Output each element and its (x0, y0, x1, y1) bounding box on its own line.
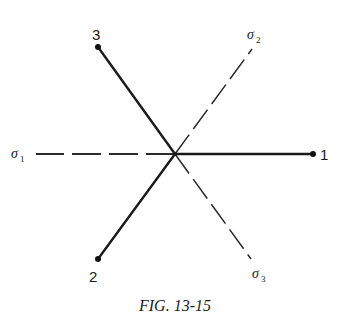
sigma-2-label: σ2 (247, 27, 260, 45)
axis-3-label: 3 (92, 26, 100, 43)
axis-1-label: 1 (320, 146, 328, 163)
sigma-2-axis-dashed (175, 49, 252, 154)
sigma-2-symbol: σ (247, 27, 255, 42)
axis-1-endpoint-dot (310, 151, 316, 157)
sigma-3-subscript: 3 (261, 274, 266, 284)
sigma-3-symbol: σ (252, 266, 260, 281)
stress-axes-diagram: 3 1 2 σ1 σ2 σ3 FIG. 13-15 (0, 0, 345, 323)
axis-3-endpoint-dot (95, 44, 101, 50)
axis-2-endpoint-dot (95, 256, 101, 262)
axis-2-solid (98, 154, 175, 259)
sigma-1-label: σ1 (11, 146, 24, 164)
axis-3-solid (98, 47, 175, 154)
figure-caption: FIG. 13-15 (138, 297, 211, 314)
sigma-2-subscript: 2 (256, 35, 261, 45)
axis-2-label: 2 (89, 268, 97, 285)
sigma-1-symbol: σ (11, 146, 19, 161)
sigma-3-label: σ3 (252, 266, 266, 284)
sigma-1-subscript: 1 (20, 154, 25, 164)
sigma-3-axis-dashed (175, 154, 251, 259)
